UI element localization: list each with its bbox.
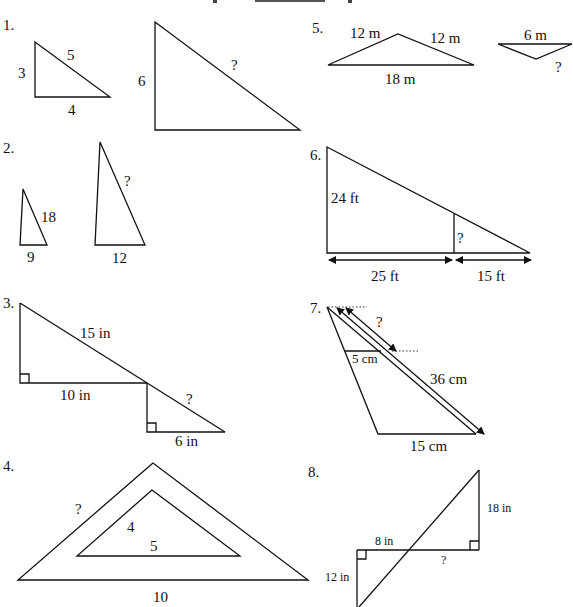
side-label: 15 ft <box>477 268 506 284</box>
problem-number: 7. <box>310 300 321 316</box>
problem-6: 6. 24 ft ? 25 ft 15 ft <box>310 147 531 284</box>
side-label: 18 in <box>487 501 511 515</box>
triangle-small <box>498 44 572 59</box>
unknown-label: ? <box>186 391 193 407</box>
side-label: 12 m <box>350 25 381 41</box>
problem-number: 3. <box>3 295 14 311</box>
side-label: 3 <box>18 65 26 81</box>
triangle-large <box>155 22 300 130</box>
unknown-label: ? <box>124 173 131 189</box>
problem-1: 1. 3 5 4 6 ? <box>3 17 300 130</box>
side-label: 15 cm <box>410 438 447 454</box>
problem-number: 1. <box>3 17 14 33</box>
triangle-inner <box>77 490 240 556</box>
right-angle-icon <box>147 423 156 432</box>
problem-5: 5. 12 m 12 m 18 m 6 m ? <box>312 20 572 87</box>
hypotenuse <box>20 303 225 432</box>
unknown-label: ? <box>441 553 446 567</box>
side-label: 24 ft <box>331 190 360 206</box>
unknown-label: ? <box>75 501 82 517</box>
right-angle-icon <box>357 550 366 559</box>
side-label: 25 ft <box>371 268 400 284</box>
side-label: 10 in <box>60 387 91 403</box>
side-label: 18 <box>41 209 56 225</box>
right-angle-icon <box>470 541 479 550</box>
side-label: 12 in <box>325 570 349 584</box>
problem-number: 5. <box>312 20 323 36</box>
side-label: 6 m <box>524 27 547 43</box>
side-label: 15 in <box>80 325 111 341</box>
problem-2: 2. 18 9 ? 12 <box>3 140 145 266</box>
problem-3: 3. 15 in 10 in ? 6 in <box>3 295 225 449</box>
problem-number: 6. <box>310 147 321 163</box>
triangle-large <box>95 142 145 245</box>
side-label: 12 m <box>430 30 461 46</box>
side-label: 10 <box>153 589 168 605</box>
side-label: 5 <box>150 538 158 554</box>
side-label: 6 <box>138 73 146 89</box>
unknown-label: ? <box>555 59 562 75</box>
problem-7: 7. ? 5 cm 36 cm 15 cm <box>310 300 484 454</box>
side-label: 18 m <box>385 71 416 87</box>
side-label: 5 cm <box>352 351 378 366</box>
worksheet-similar-triangles: 1. 3 5 4 6 ? 5. 12 m 12 m 18 m 6 m ? 2. … <box>0 0 573 607</box>
side-label: 6 in <box>175 433 198 449</box>
problem-8: 8. 18 in 8 in ? 12 in <box>308 464 511 607</box>
side-label: 9 <box>27 249 35 265</box>
unknown-label: ? <box>376 314 383 330</box>
right-angle-icon <box>20 374 29 383</box>
header-cutoff <box>213 0 352 3</box>
problem-number: 4. <box>3 458 14 474</box>
problem-number: 2. <box>3 140 14 156</box>
side-label: 4 <box>127 519 135 535</box>
side-label: 4 <box>68 102 76 118</box>
problem-number: 8. <box>308 464 319 480</box>
triangle-outer <box>18 463 308 580</box>
unknown-label: ? <box>231 57 238 73</box>
problem-4: 4. ? 4 5 10 <box>3 458 308 605</box>
side-label: 36 cm <box>430 371 467 387</box>
side-label: 8 in <box>375 534 393 548</box>
side-label: 12 <box>112 250 127 266</box>
unknown-label: ? <box>457 230 464 246</box>
side-label: 5 <box>67 47 75 63</box>
